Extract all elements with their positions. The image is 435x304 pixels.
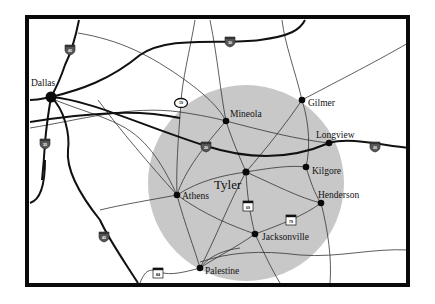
shield-number: 30: [228, 41, 232, 45]
interstate-highway-35-shield-icon: 35: [40, 139, 50, 149]
city-dot-icon: [197, 265, 204, 272]
shield-number: 19: [179, 101, 183, 105]
city-label: Longview: [316, 130, 355, 140]
us-highway-69-shield-icon: 69: [243, 201, 253, 211]
shield-number: 45: [68, 49, 72, 53]
shield-number: 35: [43, 143, 47, 147]
city-label: Dallas: [31, 78, 56, 88]
interstate-highway-45-shield-icon: 45: [99, 232, 109, 242]
city-dot-icon: [252, 231, 259, 238]
city-dot-icon: [223, 118, 230, 125]
city-dot-icon: [174, 192, 181, 199]
map: 45303520204519697984 DallasMineolaGilmer…: [0, 0, 435, 304]
city-dot-icon: [326, 140, 333, 147]
city-label: Palestine: [205, 266, 239, 276]
shield-number: 45: [102, 236, 106, 240]
shield-number: 79: [289, 220, 293, 224]
city-label: Mineola: [230, 109, 262, 119]
city-dot-icon: [303, 164, 310, 171]
interstate-highway-20-shield-icon: 20: [370, 142, 380, 152]
city-dot-icon: [242, 168, 249, 175]
city-dot-icon: [318, 200, 325, 207]
us-highway-79-shield-icon: 79: [286, 215, 296, 225]
city-label: Henderson: [318, 190, 359, 200]
city-label: Tyler: [214, 177, 242, 192]
city-label: Gilmer: [308, 98, 336, 108]
interstate-highway-45-shield-icon: 45: [65, 45, 75, 55]
city-label: Athens: [182, 191, 209, 201]
city-dot-icon: [46, 92, 57, 103]
shield-number: 20: [204, 146, 208, 150]
shield-number: 84: [156, 273, 160, 277]
shield-number: 20: [373, 146, 377, 150]
interstate-highway-20-shield-icon: 20: [201, 142, 211, 152]
shield-number: 69: [246, 206, 250, 210]
state-highway-19-shield-icon: 19: [175, 99, 188, 108]
city-label: Kilgore: [312, 166, 341, 176]
interstate-highway-30-shield-icon: 30: [225, 37, 235, 47]
city-dot-icon: [299, 97, 306, 104]
city-label: Jacksonville: [262, 232, 309, 242]
us-highway-84-shield-icon: 84: [153, 268, 163, 278]
